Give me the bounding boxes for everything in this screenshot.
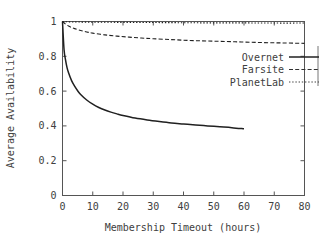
y-tick-label: 1 xyxy=(50,16,56,27)
y-tick-label: 0.8 xyxy=(38,51,56,62)
y-tick-label: 0.4 xyxy=(38,120,56,131)
x-tick-label: 20 xyxy=(117,201,129,212)
chart-legend: OvernetFarsitePlanetLab xyxy=(230,46,319,88)
availability-line-chart: 01020304050607080 00.20.40.60.81 Members… xyxy=(0,0,326,241)
y-tick-label: 0 xyxy=(50,190,56,201)
y-axis-label: Average Availability xyxy=(5,48,16,168)
y-tick-label: 0.6 xyxy=(38,86,56,97)
legend-label-overnet: Overnet xyxy=(242,52,284,63)
legend-label-farsite: Farsite xyxy=(242,64,284,75)
x-tick-label: 0 xyxy=(59,201,65,212)
x-axis-ticks xyxy=(63,22,305,196)
series-line-overnet xyxy=(63,22,245,129)
x-tick-label: 50 xyxy=(208,201,220,212)
x-tick-label: 60 xyxy=(238,201,250,212)
plot-frame xyxy=(63,22,305,196)
x-axis-label: Membership Timeout (hours) xyxy=(105,222,262,233)
x-tick-label: 40 xyxy=(177,201,189,212)
data-series-group xyxy=(63,22,305,129)
y-tick-label: 0.2 xyxy=(38,155,56,166)
legend-label-planetlab: PlanetLab xyxy=(230,77,284,88)
chart-figure: 01020304050607080 00.20.40.60.81 Members… xyxy=(0,0,326,241)
x-tick-label: 30 xyxy=(147,201,159,212)
y-axis-tick-labels: 00.20.40.60.81 xyxy=(38,16,56,201)
x-tick-label: 10 xyxy=(87,201,99,212)
x-tick-label: 80 xyxy=(298,201,310,212)
y-axis-ticks xyxy=(63,22,305,196)
x-tick-label: 70 xyxy=(268,201,280,212)
x-axis-tick-labels: 01020304050607080 xyxy=(59,201,310,212)
